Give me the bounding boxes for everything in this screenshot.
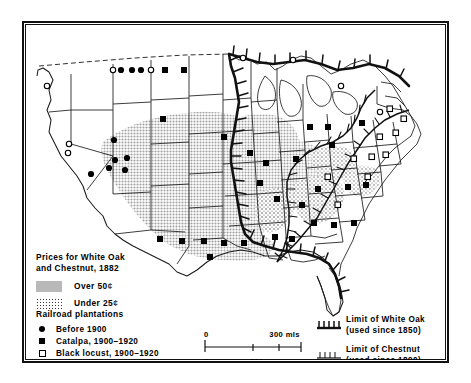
scale-km-end: 300 km [250, 357, 278, 360]
legend-label-catalpa: Catalpa, 1900–1920 [56, 337, 138, 346]
legend-limit-white-oak-line2: (used since 1850) [346, 326, 421, 335]
legend-limit-white-oak-text: Limit of White Oak (used since 1850) [346, 315, 425, 336]
legend-railroad-title: Railroad plantations [36, 309, 236, 319]
filled-circle-icon [36, 326, 56, 332]
scale-bar-graphic [202, 340, 314, 353]
swatch-under-25-cents [36, 298, 62, 309]
legend-prices-title-line1: Prices for White Oak [36, 252, 206, 263]
legend-limit-white-oak-line1: Limit of White Oak [346, 315, 425, 324]
legend-item-limit-chestnut: Limit of Chestnut (used since 1890) [316, 345, 446, 360]
light-hatched-line-icon [316, 345, 346, 360]
legend-limit-chestnut-line2: (used since 1890) [346, 356, 421, 360]
scale-bar-km-labels: 0 300 km [204, 357, 278, 360]
scale-bar: 0 300 mls 0 300 km [202, 330, 317, 360]
cent-symbol-under-25: ¢ [113, 298, 118, 308]
scale-km-start: 0 [204, 357, 209, 360]
legend-label-black-locust: Black locust, 1900–1920 [56, 349, 159, 358]
legend-label-before-1900: Before 1900 [56, 325, 107, 334]
map-canvas: Prices for White Oak and Chestnut, 1882 … [25, 24, 446, 360]
heavy-hatched-line-icon [316, 315, 346, 335]
legend-limit-chestnut-line1: Limit of Chestnut [346, 345, 420, 354]
legend-limit-lines: Limit of White Oak (used since 1850) Lim… [316, 315, 446, 360]
scale-bar-miles-labels: 0 300 mls [204, 330, 300, 339]
map-figure: Prices for White Oak and Chestnut, 1882 … [0, 0, 471, 383]
legend-limit-chestnut-text: Limit of Chestnut (used since 1890) [346, 345, 421, 360]
scale-miles-start: 0 [204, 330, 209, 339]
legend-prices-title-line2: and Chestnut, 1882 [36, 263, 206, 274]
legend-price-label-over-50: Over 50 [74, 281, 108, 291]
scale-miles-end: 300 mls [269, 330, 300, 339]
open-square-icon [36, 350, 56, 357]
cent-symbol-over-50: ¢ [108, 281, 113, 291]
legend-price-item-under-25: Under 25 ¢ [36, 298, 206, 309]
swatch-over-50-cents [36, 281, 62, 292]
legend-price-item-over-50: Over 50 ¢ [36, 281, 206, 292]
legend-price-label-under-25: Under 25 [74, 298, 113, 308]
legend-item-limit-white-oak: Limit of White Oak (used since 1850) [316, 315, 446, 336]
legend-prices: Prices for White Oak and Chestnut, 1882 … [36, 252, 206, 309]
filled-square-icon [36, 338, 56, 344]
